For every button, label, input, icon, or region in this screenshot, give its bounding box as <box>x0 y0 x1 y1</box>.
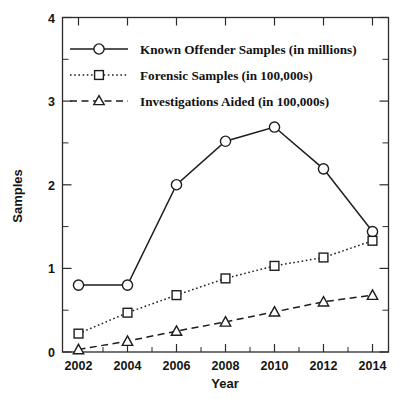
data-point-triangle-2014 <box>367 290 377 299</box>
data-point-triangle-2006 <box>171 326 181 335</box>
circle-marker <box>94 44 104 54</box>
x-tick-label-2006: 2006 <box>163 359 191 373</box>
legend-entry-investigations-aided: Investigations Aided (in 100,000s) <box>70 94 329 109</box>
data-point-circle-2014 <box>367 226 377 236</box>
data-point-square-2006 <box>172 291 181 300</box>
x-tick-label-2004: 2004 <box>114 359 142 373</box>
triangle-marker <box>94 96 104 105</box>
data-point-circle-2002 <box>73 280 83 290</box>
legend-entry-known-offender-samples: Known Offender Samples (in millions) <box>70 42 357 57</box>
data-point-square-2004 <box>123 308 132 317</box>
y-tick-label-1: 1 <box>48 262 55 276</box>
x-tick-label-2010: 2010 <box>261 359 289 373</box>
y-tick-label-4: 4 <box>48 12 55 26</box>
y-tick-label-3: 3 <box>48 95 55 109</box>
data-point-square-2010 <box>270 261 279 270</box>
data-point-square-2014 <box>368 236 377 245</box>
legend-label-0: Known Offender Samples (in millions) <box>140 42 357 57</box>
legend-label-2: Investigations Aided (in 100,000s) <box>140 94 329 109</box>
chart-legend: Known Offender Samples (in millions) For… <box>70 42 357 109</box>
y-tick-label-0: 0 <box>48 346 55 360</box>
y-tick-label-2: 2 <box>48 179 55 193</box>
x-axis-title: Year <box>211 376 238 391</box>
data-series-layer <box>73 122 377 354</box>
chart-figure: 4 3 2 1 0 2002 2004 2006 2008 2010 2012 … <box>0 0 406 399</box>
data-point-square-2008 <box>221 274 230 283</box>
data-point-square-2002 <box>74 329 83 338</box>
x-tick-label-2002: 2002 <box>65 359 93 373</box>
data-point-circle-2006 <box>171 180 181 190</box>
data-point-triangle-2010 <box>269 307 279 316</box>
y-axis-title: Samples <box>10 169 25 222</box>
data-point-square-2012 <box>319 253 328 262</box>
data-point-circle-2010 <box>269 122 279 132</box>
data-point-circle-2008 <box>220 136 230 146</box>
square-marker <box>95 71 104 80</box>
series-circle <box>73 122 377 290</box>
x-tick-label-2012: 2012 <box>310 359 338 373</box>
data-point-triangle-2004 <box>122 336 132 345</box>
data-point-circle-2012 <box>318 164 328 174</box>
x-tick-label-2008: 2008 <box>212 359 240 373</box>
legend-label-1: Forensic Samples (in 100,000s) <box>140 68 313 83</box>
x-tick-label-2014: 2014 <box>359 359 387 373</box>
data-point-circle-2004 <box>122 280 132 290</box>
line-chart-canvas: 4 3 2 1 0 2002 2004 2006 2008 2010 2012 … <box>0 0 406 399</box>
legend-entry-forensic-samples: Forensic Samples (in 100,000s) <box>70 68 313 83</box>
